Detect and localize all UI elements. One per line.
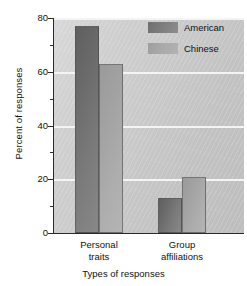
bar — [75, 26, 99, 233]
bar — [158, 198, 182, 233]
y-tick-minor — [50, 99, 54, 100]
y-tick-group: 80 — [0, 18, 48, 19]
y-tick-mark — [48, 233, 54, 234]
gridline — [54, 18, 244, 20]
y-tick-label: 80 — [4, 12, 48, 23]
y-tick-label: 0 — [4, 227, 48, 238]
legend-label-american: American — [184, 22, 224, 33]
y-tick-minor — [50, 152, 54, 153]
y-tick-group: 40 — [0, 126, 48, 127]
bar-chart-figure: Percent of responses 020406080 Personal … — [0, 0, 247, 286]
y-tick-label: 20 — [4, 173, 48, 184]
legend-swatch-chinese-icon — [148, 43, 178, 54]
y-axis-title: Percent of responses — [13, 34, 24, 194]
y-tick-minor — [50, 45, 54, 46]
x-axis-title: Types of responses — [0, 268, 247, 279]
y-tick-group: 20 — [0, 179, 48, 180]
x-category-label: Group affiliations — [132, 239, 232, 262]
legend-entry-american: American — [148, 22, 224, 33]
y-tick-label: 40 — [4, 120, 48, 131]
bar — [182, 177, 206, 233]
bar — [99, 64, 123, 233]
legend-entry-chinese: Chinese — [148, 43, 219, 54]
legend-label-chinese: Chinese — [184, 43, 219, 54]
y-tick-minor — [50, 206, 54, 207]
legend-swatch-american-icon — [148, 22, 178, 33]
x-axis-line — [53, 233, 244, 234]
y-tick-group: 0 — [0, 233, 48, 234]
y-tick-group: 60 — [0, 72, 48, 73]
y-tick-label: 60 — [4, 66, 48, 77]
